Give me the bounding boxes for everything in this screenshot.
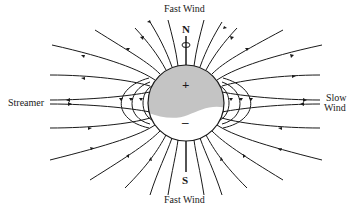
field-lines-svg [0, 0, 353, 210]
label-fast-wind-top: Fast Wind [164, 4, 205, 14]
label-plus: + [182, 80, 189, 90]
label-minus: – [182, 117, 189, 127]
label-streamer: Streamer [8, 98, 44, 108]
label-wind: Wind [324, 103, 346, 113]
label-south: S [182, 175, 188, 185]
diagram-canvas: Fast Wind N + – S Fast Wind Streamer Slo… [0, 0, 353, 210]
label-fast-wind-bottom: Fast Wind [164, 195, 205, 205]
label-north: N [182, 24, 190, 34]
